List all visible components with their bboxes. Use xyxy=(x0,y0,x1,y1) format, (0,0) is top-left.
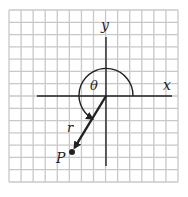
y-axis-label: y xyxy=(100,17,110,33)
point-p-label: P xyxy=(55,150,66,166)
point-p-dot xyxy=(69,149,75,155)
polar-coordinate-diagram: y x θ r P xyxy=(0,0,188,197)
r-label: r xyxy=(67,120,74,135)
radius-vector-r xyxy=(75,96,106,148)
theta-label: θ xyxy=(90,78,98,93)
x-axis-label: x xyxy=(163,77,171,93)
